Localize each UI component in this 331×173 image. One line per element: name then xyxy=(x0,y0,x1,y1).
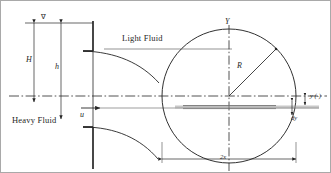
free-surface-symbol: ∇ xyxy=(41,14,46,21)
label-height-total-H: H xyxy=(26,56,32,64)
radius-line-R xyxy=(229,49,276,96)
label-height-inner-h: h xyxy=(55,63,59,71)
label-heavy-fluid: Heavy Fluid xyxy=(12,116,56,125)
lower-jet-curve xyxy=(83,127,158,159)
label-velocity-u: u xyxy=(80,111,84,119)
label-axis-Y: Y xyxy=(225,18,229,26)
label-offset-y: y (-) xyxy=(310,93,321,100)
differential-strip-dy xyxy=(175,106,319,109)
label-thickness-dy: dy xyxy=(291,115,297,122)
label-span-2x: 2x xyxy=(220,154,226,161)
diagram-vector-layer xyxy=(1,1,331,173)
nozzle-wall xyxy=(83,21,93,169)
upper-jet-curve xyxy=(83,51,159,83)
figure-canvas: ∇ H h u Light Fluid Heavy Fluid Y R y (-… xyxy=(0,0,331,173)
label-light-fluid: Light Fluid xyxy=(122,34,163,43)
label-radius-R: R xyxy=(237,62,242,70)
